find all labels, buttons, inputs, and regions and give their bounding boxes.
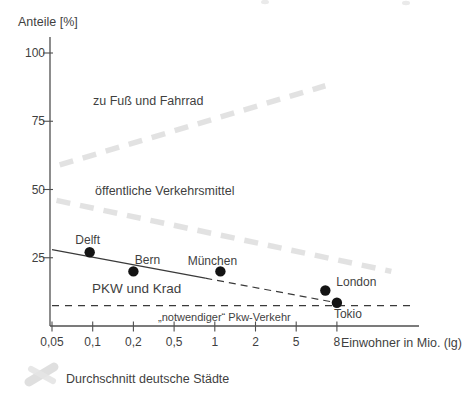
x-axis-title: Einwohner in Mio. (lg) [341, 336, 462, 350]
y-tick-label: 25 [32, 251, 46, 265]
legend-gray-smudge-icon [29, 367, 54, 382]
x-tick-label: 1 [211, 335, 218, 349]
data-points: DelftBernMünchenLondonTokio [75, 233, 376, 321]
region-label-notwendiger-pkw-verkehr: „notwendiger“ Pkw-Verkehr [158, 311, 291, 323]
x-tick-label: 0,1 [84, 335, 101, 349]
region-label-zu-fuss-und-fahrrad: zu Fuß und Fahrrad [93, 94, 204, 108]
legend-label: Durchschnitt deutsche Städte [66, 372, 229, 386]
y-tick-label: 75 [32, 114, 46, 128]
region-label-oeffentliche-verkehrsmittel: öffentliche Verkehrsmittel [95, 184, 234, 198]
modal-split-chart: 0,050,10,20,51258255075100 DelftBernMünc… [0, 0, 469, 400]
x-tick-label: 0,5 [166, 335, 183, 349]
point-label-London: London [336, 275, 376, 289]
y-tick-label: 50 [32, 183, 46, 197]
chart-canvas: 0,050,10,20,51258255075100 DelftBernMünc… [0, 0, 469, 400]
scan-specks [261, 0, 410, 5]
scan-speck [261, 0, 269, 4]
x-tick-label: 8 [334, 335, 341, 349]
point-Bern [128, 266, 138, 276]
line-pkw-krad-boundary-solid [52, 250, 205, 279]
average-bands [57, 86, 392, 272]
y-axis-title: Anteile [%] [18, 15, 78, 29]
point-Delft [84, 247, 94, 257]
y-tick-label: 100 [25, 46, 45, 60]
scan-speck [402, 1, 410, 5]
point-label-Tokio: Tokio [334, 307, 362, 321]
point-London [320, 285, 330, 295]
x-tick-label: 0,05 [40, 335, 64, 349]
legend: Durchschnitt deutsche Städte [29, 367, 229, 386]
x-tick-label: 0,2 [125, 335, 142, 349]
point-label-München: München [188, 254, 237, 268]
line-pkw-krad-boundary-dashed [205, 278, 337, 303]
point-label-Bern: Bern [135, 253, 160, 267]
x-tick-label: 5 [293, 335, 300, 349]
x-tick-label: 2 [252, 335, 259, 349]
region-label-pkw-und-krad: PKW und Krad [92, 281, 181, 296]
point-label-Delft: Delft [75, 233, 100, 247]
